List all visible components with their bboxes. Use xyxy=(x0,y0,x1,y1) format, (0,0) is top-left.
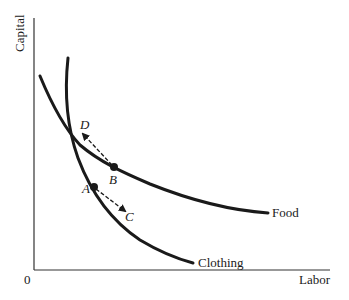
clothing-curve xyxy=(66,58,193,263)
y-axis-label: Capital xyxy=(12,14,27,52)
point-a-label: A xyxy=(81,181,90,196)
food-curve-label: Food xyxy=(272,205,299,220)
point-c-label: C xyxy=(125,209,134,224)
clothing-curve-label: Clothing xyxy=(198,255,244,270)
x-axis-label: Labor xyxy=(299,272,331,287)
point-b-marker xyxy=(110,163,118,171)
origin-label: 0 xyxy=(24,272,31,287)
isoquant-diagram: Capital Labor 0 Clothing Food D B A C xyxy=(0,0,349,300)
point-a-marker xyxy=(90,183,98,191)
point-d-label: D xyxy=(79,117,90,132)
point-b-label: B xyxy=(109,172,117,187)
